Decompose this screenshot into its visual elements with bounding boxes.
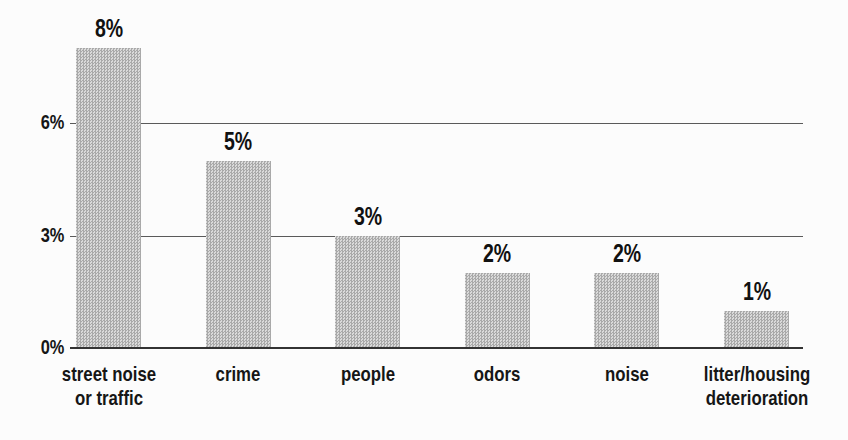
category-label: crime xyxy=(182,362,294,386)
bar-value-label: 2% xyxy=(450,239,544,268)
bar-1 xyxy=(206,161,271,349)
y-tick-label: 6% xyxy=(40,110,64,134)
bar-chart: 0%3%6%8%street noise or traffic5%crime3%… xyxy=(0,0,848,440)
y-tick-label: 0% xyxy=(40,335,64,359)
category-label: street noise or traffic xyxy=(53,362,165,410)
category-label: odors xyxy=(441,362,553,386)
bar-value-label: 5% xyxy=(191,127,285,156)
gridline-6% xyxy=(70,123,803,124)
gridline-3% xyxy=(70,236,803,237)
x-axis-baseline xyxy=(70,347,803,349)
bar-value-label: 2% xyxy=(580,239,674,268)
bar-value-label: 8% xyxy=(62,14,156,43)
bar-value-label: 3% xyxy=(321,202,415,231)
bar-5 xyxy=(724,311,789,349)
bar-value-label: 1% xyxy=(710,277,804,306)
bar-3 xyxy=(465,273,530,348)
bar-4 xyxy=(594,273,659,348)
category-label: noise xyxy=(571,362,683,386)
bar-0 xyxy=(76,48,141,348)
y-tick-label: 3% xyxy=(40,223,64,247)
bar-2 xyxy=(335,236,400,349)
category-label: litter/housing deterioration xyxy=(701,362,813,410)
category-label: people xyxy=(312,362,424,386)
